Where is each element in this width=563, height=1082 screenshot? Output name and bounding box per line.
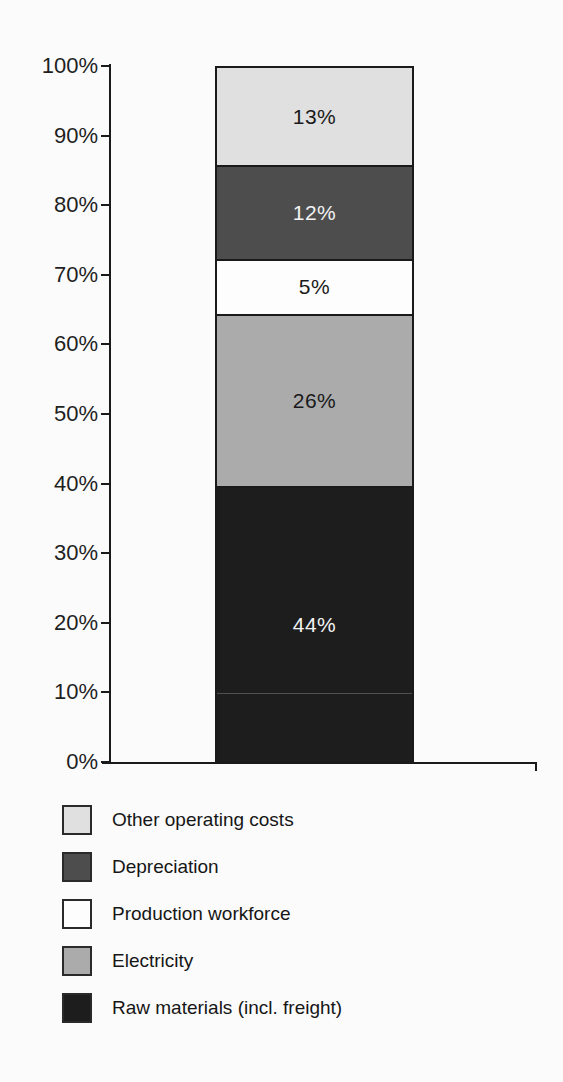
y-tick-label: 50%	[26, 401, 98, 427]
legend-label: Other operating costs	[112, 809, 294, 831]
segment-data-label: 5%	[299, 275, 330, 299]
y-tick-label: 0%	[26, 749, 98, 775]
segment-data-label: 44%	[293, 613, 337, 637]
bar-segment-electricity: 26%	[217, 314, 412, 487]
bar-segment-other-operating-costs: 13%	[217, 68, 412, 165]
legend-item: Raw materials (incl. freight)	[62, 993, 342, 1023]
legend-swatch	[62, 805, 92, 835]
y-tick-mark	[101, 413, 109, 415]
stacked-column: 13%12%5%26%44%	[215, 66, 414, 763]
chart-legend: Other operating costsDepreciationProduct…	[62, 805, 342, 1040]
bar-segment-production-workforce: 5%	[217, 259, 412, 313]
scanned-chart-page: 100%90%80%70%60%50%40%30%20%10%0% 13%12%…	[0, 0, 563, 1082]
legend-item: Depreciation	[62, 852, 342, 882]
y-tick-mark	[101, 483, 109, 485]
legend-item: Production workforce	[62, 899, 342, 929]
segment-data-label: 26%	[293, 389, 337, 413]
legend-swatch	[62, 852, 92, 882]
legend-item: Electricity	[62, 946, 342, 976]
y-tick-label: 80%	[26, 192, 98, 218]
y-tick-mark	[101, 65, 109, 67]
y-tick-label: 20%	[26, 610, 98, 636]
legend-label: Production workforce	[112, 903, 290, 925]
legend-swatch	[62, 993, 92, 1023]
x-axis-line	[102, 762, 537, 764]
segment-data-label: 12%	[293, 201, 337, 225]
scan-artifact-line	[217, 693, 412, 694]
stacked-bar-chart: 100%90%80%70%60%50%40%30%20%10%0% 13%12%…	[0, 0, 563, 790]
x-axis-end-tick	[535, 762, 537, 771]
y-tick-mark	[101, 552, 109, 554]
y-tick-label: 60%	[26, 331, 98, 357]
segment-data-label: 13%	[293, 105, 337, 129]
y-tick-mark	[101, 691, 109, 693]
y-tick-label: 30%	[26, 540, 98, 566]
legend-label: Depreciation	[112, 856, 219, 878]
y-tick-mark	[101, 343, 109, 345]
legend-swatch	[62, 946, 92, 976]
legend-label: Raw materials (incl. freight)	[112, 997, 342, 1019]
y-tick-label: 70%	[26, 262, 98, 288]
y-tick-label: 100%	[26, 53, 98, 79]
y-tick-mark	[101, 204, 109, 206]
bar-segment-raw-materials-incl-freight: 44%	[217, 486, 412, 761]
y-tick-label: 40%	[26, 471, 98, 497]
legend-label: Electricity	[112, 950, 193, 972]
bar-segment-depreciation: 12%	[217, 165, 412, 259]
y-tick-mark	[101, 622, 109, 624]
legend-swatch	[62, 899, 92, 929]
legend-item: Other operating costs	[62, 805, 342, 835]
y-tick-mark	[101, 135, 109, 137]
y-axis-line	[109, 64, 111, 764]
y-tick-label: 10%	[26, 679, 98, 705]
y-tick-mark	[101, 274, 109, 276]
y-tick-label: 90%	[26, 123, 98, 149]
